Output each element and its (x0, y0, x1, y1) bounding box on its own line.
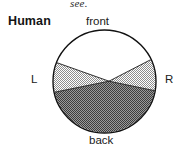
visual-field-circle-diagram (0, 0, 187, 155)
back-dark-sector (53, 81, 156, 143)
figure-container: see. Human front back L R (0, 0, 187, 155)
